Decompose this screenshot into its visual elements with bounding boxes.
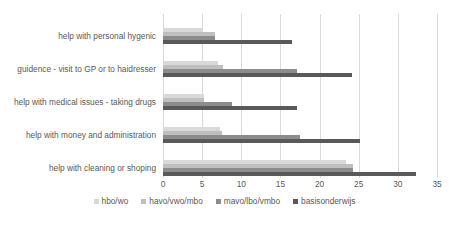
legend-item-0[interactable]: hbo/wo — [94, 196, 129, 206]
bar-row — [163, 106, 437, 110]
bar[interactable] — [163, 106, 297, 110]
bar-group — [163, 127, 437, 143]
x-tick-label-15: 15 — [276, 179, 285, 189]
bar-group — [163, 160, 437, 176]
bar-row — [163, 139, 437, 143]
x-tick-label-5: 5 — [200, 179, 205, 189]
bar-row — [163, 73, 437, 77]
bar[interactable] — [163, 139, 360, 143]
category-label: help with money and administration — [26, 130, 156, 140]
legend-swatch-icon — [293, 199, 298, 204]
value-axis-tick-labels: 05101520253035 — [163, 179, 437, 193]
bar-row — [163, 172, 437, 176]
gridline-35 — [437, 14, 438, 178]
category-axis-labels: help with personal hygenicguidence - vis… — [0, 14, 160, 178]
bar-group — [163, 61, 437, 77]
legend-swatch-icon — [94, 199, 99, 204]
legend-swatch-icon — [141, 199, 146, 204]
category-label: help with personal hygenic — [58, 31, 156, 41]
x-tick-label-0: 0 — [161, 179, 166, 189]
category-label: help with medical issues - taking drugs — [14, 97, 156, 107]
plot-area — [163, 14, 437, 178]
x-tick-label-35: 35 — [432, 179, 441, 189]
x-tick-label-20: 20 — [315, 179, 324, 189]
category-label: guidence - visit to GP or to haidresser — [17, 64, 156, 74]
legend-swatch-icon — [216, 199, 221, 204]
legend-label: basisonderwijs — [301, 196, 355, 206]
x-tick-label-10: 10 — [237, 179, 246, 189]
bar[interactable] — [163, 172, 416, 176]
legend-item-1[interactable]: havo/vwo/mbo — [141, 196, 203, 206]
bar[interactable] — [163, 73, 352, 77]
legend-label: hbo/wo — [102, 196, 129, 206]
bar[interactable] — [163, 40, 292, 44]
bar-group — [163, 94, 437, 110]
legend-label: havo/vwo/mbo — [149, 196, 203, 206]
bar-chart: help with personal hygenicguidence - vis… — [0, 0, 449, 225]
legend-item-3[interactable]: basisonderwijs — [293, 196, 355, 206]
x-tick-label-30: 30 — [393, 179, 402, 189]
bar-row — [163, 40, 437, 44]
legend-item-2[interactable]: mavo/lbo/vmbo — [216, 196, 280, 206]
chart-legend: hbo/wohavo/vwo/mbomavo/lbo/vmbobasisonde… — [0, 196, 449, 206]
legend-label: mavo/lbo/vmbo — [224, 196, 280, 206]
x-tick-label-25: 25 — [354, 179, 363, 189]
category-label: help with cleaning or shoping — [49, 163, 156, 173]
bar-group — [163, 28, 437, 44]
